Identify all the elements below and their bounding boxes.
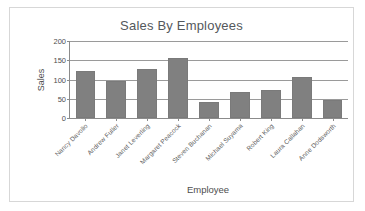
y-axis-tick-label: 100 [53,75,66,84]
x-axis-title: Employee [69,184,347,195]
bar[interactable] [76,71,96,118]
bar[interactable] [230,92,250,118]
plot-area: 050100150200 [69,41,348,119]
y-axis-tick-mark [67,118,70,119]
bar[interactable] [199,102,219,118]
bar[interactable] [168,58,188,118]
bar-slot [194,41,225,118]
bar-slot [224,41,255,118]
y-axis-tick-label: 0 [62,114,66,123]
y-axis-title: Sales [34,41,48,118]
bar[interactable] [323,100,343,118]
x-axis-label-slot: Anne Dodsworth [316,120,347,176]
y-axis-tick-label: 200 [53,37,66,46]
bar[interactable] [137,69,157,118]
bar-slot [286,41,317,118]
y-axis-tick-label: 150 [53,56,66,65]
bar[interactable] [292,77,312,118]
chart-frame: Sales By Employees Sales 050100150200 Na… [9,7,354,202]
bar-slot [70,41,101,118]
bar-slot [163,41,194,118]
bar-slot [101,41,132,118]
x-axis-tick-labels: Nancy DavolioAndrew FullerJanet Leverlin… [69,120,347,176]
bar[interactable] [261,90,281,118]
chart-title: Sales By Employees [10,18,353,33]
bar-slot [132,41,163,118]
bar-slot [255,41,286,118]
bar[interactable] [106,81,126,118]
bar-series [70,41,348,118]
x-axis-tick-label: Nancy Davolio [54,122,90,158]
bar-slot [317,41,348,118]
y-axis-title-label: Sales [36,68,46,91]
y-axis-tick-label: 50 [58,94,66,103]
